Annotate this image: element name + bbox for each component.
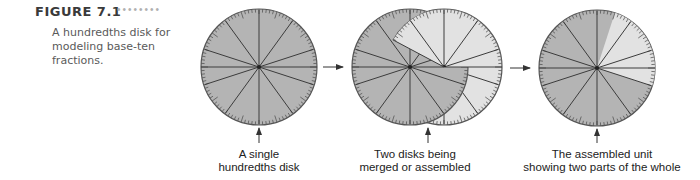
dark-disk-center-pin	[408, 65, 412, 69]
caption-single-disk: A single hundredths disk	[199, 148, 319, 174]
merging-disks	[352, 9, 502, 125]
assembled-unit-disk	[539, 10, 655, 126]
caption-single-line2: hundredths disk	[199, 161, 319, 174]
caption-assembled-line1: The assembled unit	[517, 148, 687, 161]
caption-merging-line1: Two disks being	[350, 148, 480, 161]
caption-merging-disks: Two disks being merged or assembled	[350, 148, 480, 174]
single-hundredths-disk	[201, 9, 317, 125]
caption-assembled-line2: showing two parts of the whole	[517, 161, 687, 174]
caption-merging-line2: merged or assembled	[350, 161, 480, 174]
disk3-center-pin	[595, 66, 599, 70]
disk1-center-pin	[257, 65, 261, 69]
caption-single-line1: A single	[199, 148, 319, 161]
caption-assembled-unit: The assembled unit showing two parts of …	[517, 148, 687, 174]
